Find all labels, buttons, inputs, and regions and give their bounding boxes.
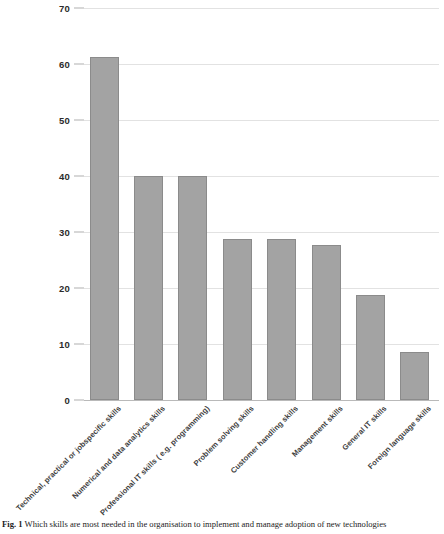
bar (90, 57, 119, 400)
bar (356, 295, 385, 400)
bar (312, 245, 341, 400)
y-tick-mark-20 (74, 288, 84, 289)
y-tick-mark-0 (74, 400, 84, 401)
y-tick-label-10: 10 (59, 339, 70, 350)
bar (223, 239, 252, 400)
x-axis-labels: Technical, practical or jobspecific skil… (84, 404, 439, 514)
bar (178, 176, 207, 400)
bar (134, 176, 163, 400)
y-tick-mark-40 (74, 176, 84, 177)
y-tick-label-20: 20 (59, 283, 70, 294)
x-axis-label: Numerical and data analytics skills (70, 404, 167, 501)
figure-container: 010203040506070 Technical, practical or … (0, 0, 444, 534)
figure-caption: Fig. 1 Which skills are most needed in t… (2, 519, 444, 534)
bar (267, 239, 296, 400)
bar (400, 352, 429, 400)
y-tick-mark-50 (74, 120, 84, 121)
y-tick-label-70: 70 (59, 3, 70, 14)
figure-number: Fig. 1 (2, 519, 23, 529)
y-tick-mark-10 (74, 344, 84, 345)
y-tick-mark-30 (74, 232, 84, 233)
y-axis: 010203040506070 (0, 8, 84, 400)
figure-caption-text: Which skills are most needed in the orga… (25, 519, 387, 529)
plot-area (84, 8, 439, 400)
y-tick-label-50: 50 (59, 115, 70, 126)
x-axis-label: General IT skills (341, 404, 389, 452)
y-tick-label-0: 0 (65, 395, 70, 406)
y-tick-mark-60 (74, 64, 84, 65)
y-tick-mark-70 (74, 8, 84, 9)
gridline-0 (84, 400, 439, 401)
bar-series (84, 8, 439, 400)
y-tick-label-30: 30 (59, 227, 70, 238)
y-tick-label-60: 60 (59, 59, 70, 70)
y-tick-label-40: 40 (59, 171, 70, 182)
